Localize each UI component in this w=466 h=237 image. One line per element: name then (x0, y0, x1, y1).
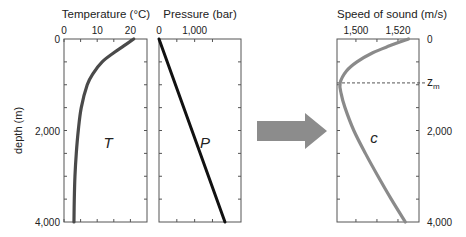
pressure-frame (159, 39, 241, 222)
x-tick-label: 0 (61, 25, 67, 36)
ocean-profile-figure: Temperature (°C)0102002,0004,000depth (m… (0, 0, 466, 237)
right-arrow-icon (257, 113, 327, 149)
temperature-panel: Temperature (°C)0102002,0004,000depth (m… (12, 8, 150, 228)
pressure-curve (159, 39, 225, 222)
x-tick-label: 10 (92, 25, 104, 36)
pressure-annotation: P (200, 134, 210, 151)
y-axis-label: depth (m) (12, 107, 24, 154)
temperature-annotation: T (103, 134, 114, 151)
y-tick-label: 2,000 (35, 126, 60, 137)
y-tick-label: 4,000 (35, 217, 60, 228)
pressure-panel: Pressure (bar)01,000P (156, 8, 241, 222)
sound-speed-title: Speed of sound (m/s) (337, 8, 447, 20)
temperature-frame (64, 39, 147, 222)
x-tick-label: 1,500 (343, 25, 368, 36)
temperature-curve (74, 39, 134, 222)
x-tick-label: 20 (125, 25, 137, 36)
y-tick-label: 4,000 (427, 217, 452, 228)
pressure-title: Pressure (bar) (163, 8, 237, 20)
y-tick-label: 0 (54, 34, 60, 45)
temperature-title: Temperature (°C) (62, 8, 150, 20)
y-tick-label: 2,000 (427, 126, 452, 137)
min-depth-label: zm (427, 75, 440, 91)
sound-speed-panel: Speed of sound (m/s)1,5001,52002,0004,00… (337, 8, 452, 228)
x-tick-label: 1,520 (385, 25, 410, 36)
sound-speed-annotation: c (370, 129, 378, 146)
y-tick-label: 0 (427, 34, 433, 45)
x-tick-label: 1,000 (182, 25, 207, 36)
x-tick-label: 0 (156, 25, 162, 36)
